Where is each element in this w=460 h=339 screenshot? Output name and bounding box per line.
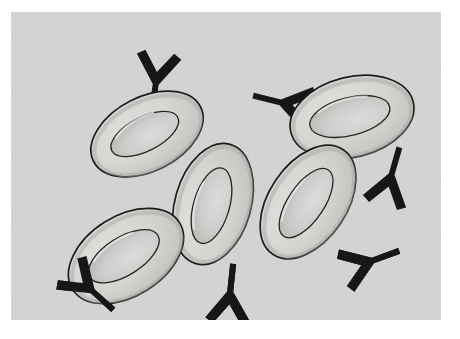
- illustration-panel: [11, 12, 441, 320]
- halftone-overlay: [11, 12, 441, 320]
- figure-root: [0, 0, 460, 339]
- illustration-canvas: [11, 12, 441, 320]
